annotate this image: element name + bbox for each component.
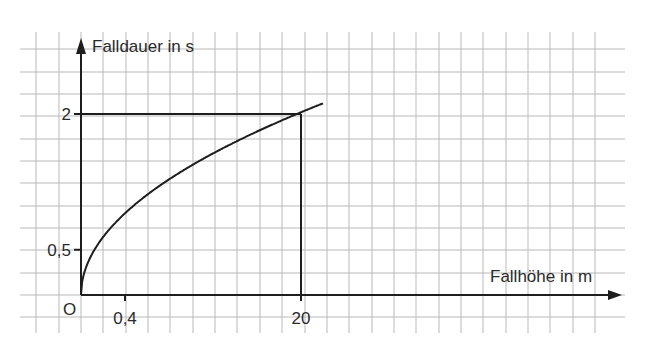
y-tick-label: 2 [62,105,71,124]
fall-time-chart: Falldauer in s Fallhöhe in m O 0,4200,52 [0,0,648,342]
y-axis-arrow-icon [76,38,86,54]
x-axis-arrow-icon [608,290,622,300]
x-axis-label: Fallhöhe in m [490,267,592,286]
x-tick-label: 20 [292,309,311,328]
origin-label: O [63,300,76,319]
y-axis-label: Falldauer in s [92,37,194,56]
x-tick-label: 0,4 [113,309,137,328]
grid [20,32,625,333]
data-curve [81,103,323,295]
y-tick-label: 0,5 [47,241,71,260]
guide-lines [81,114,301,295]
